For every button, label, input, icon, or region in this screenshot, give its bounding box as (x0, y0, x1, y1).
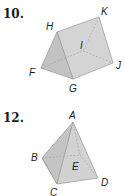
vertex-label-d: D (101, 177, 108, 188)
vertex-label-b: B (31, 152, 38, 163)
triangular-prism-figure: H K I F J G (29, 6, 122, 94)
vertex-label-k: K (101, 6, 109, 17)
square-pyramid-figure: A B E D C (31, 110, 108, 196)
vertex-label-a: A (68, 110, 76, 121)
vertex-label-i: I (80, 40, 83, 51)
vertex-label-f: F (29, 67, 36, 78)
vertex-label-g: G (69, 83, 77, 94)
vertex-label-e: E (72, 161, 79, 172)
vertex-label-h: H (46, 21, 54, 32)
vertex-label-c: C (50, 187, 58, 196)
geometry-figures: H K I F J G A B E D C (0, 0, 125, 196)
vertex-label-j: J (115, 60, 122, 71)
